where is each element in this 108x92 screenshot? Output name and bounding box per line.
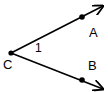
angle-diagram: C A B 1 (0, 0, 108, 92)
vertex-point-c (8, 50, 13, 55)
point-b (79, 77, 85, 83)
angle-label: 1 (35, 41, 42, 55)
point-label-b: B (88, 58, 97, 73)
vertex-label-c: C (3, 57, 12, 72)
point-label-a: A (89, 25, 98, 40)
point-a (79, 14, 85, 20)
